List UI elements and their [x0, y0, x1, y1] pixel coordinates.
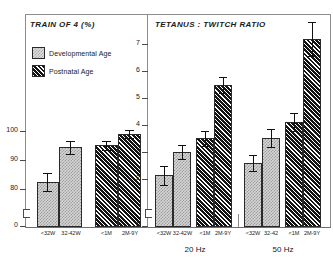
legend-label-postnatal: Postnatal Age: [49, 68, 94, 75]
errorbar-cap-bottom-left-post-lt1m: [102, 150, 111, 151]
right-ytick-label-2: 2: [124, 174, 140, 181]
errorbar-cap-bottom-right-20hz-post-2m-9y: [219, 93, 227, 94]
errorbar-cap-top-left-post-2m-9y: [125, 130, 134, 131]
errorbar-cap-bottom-right-50hz-post-lt1m: [290, 131, 298, 132]
errorbar-stem-right-20hz-dev-32-42w: [182, 145, 183, 159]
right-xtick-label-50hz-2m-9y: 2M-9Y: [300, 230, 324, 236]
right-xtick-label-50hz-32-42: 32-42: [259, 230, 283, 236]
errorbar-cap-top-right-20hz-post-lt1m: [201, 131, 209, 132]
left-axis-break-icon: [23, 209, 30, 218]
errorbar-cap-top-right-50hz-dev-32-42: [267, 129, 275, 130]
right-ytick-mark-5: [142, 98, 148, 99]
errorbar-cap-top-right-50hz-post-2m-9y: [308, 22, 316, 23]
right-ytick-label-3: 3: [124, 147, 140, 154]
legend-swatch-developmental-icon: [32, 47, 45, 59]
errorbar-stem-left-dev-lt32w: [47, 173, 48, 191]
errorbar-cap-bottom-left-dev-32-42w: [66, 154, 75, 155]
right-ytick-mark-7: [142, 44, 148, 45]
right-ytick-label-5: 5: [124, 93, 140, 100]
legend-item-postnatal: Postnatal Age: [32, 65, 94, 77]
errorbar-cap-bottom-right-20hz-post-lt1m: [201, 146, 209, 147]
errorbar-cap-top-right-20hz-dev-lt32w: [160, 166, 168, 167]
left-ytick-label-100: 100: [0, 126, 18, 133]
left-ytick-mark-90: [20, 160, 26, 161]
left-panel-title: TRAIN OF 4 (%): [30, 20, 95, 29]
right-xtick-label-20hz-2m-9y: 2M-9Y: [211, 230, 235, 236]
errorbar-stem-right-50hz-dev-32-42: [271, 129, 272, 147]
errorbar-cap-bottom-right-20hz-dev-32-42w: [178, 159, 186, 160]
errorbar-cap-bottom-right-50hz-dev-32-42: [267, 147, 275, 148]
legend-swatch-postnatal-icon: [32, 65, 45, 77]
errorbar-cap-bottom-right-50hz-dev-lt32w: [249, 171, 257, 172]
left-ytick-mark-80: [20, 189, 26, 190]
bar-left-dev-32-42w: [59, 147, 82, 227]
errorbar-stem-right-20hz-dev-lt32w: [164, 166, 165, 185]
left-ytick-label-0: 0: [0, 221, 18, 228]
errorbar-cap-top-right-50hz-post-lt1m: [290, 113, 298, 114]
right-ytick-mark-3: [142, 152, 148, 153]
errorbar-stem-left-post-lt1m: [106, 141, 107, 150]
right-panel-title: TETANUS : TWITCH RATIO: [155, 20, 266, 29]
right-ytick-mark-6: [142, 71, 148, 72]
errorbar-cap-top-left-dev-lt32w: [43, 173, 52, 174]
errorbar-stem-right-50hz-dev-lt32w: [253, 155, 254, 171]
errorbar-stem-left-post-2m-9y: [129, 130, 130, 138]
right-group-label-50hz: 50 Hz: [260, 245, 306, 254]
left-ytick-mark-100: [20, 131, 26, 132]
errorbar-cap-top-right-50hz-dev-lt32w: [249, 155, 257, 156]
bar-right-50hz-dev-lt32w: [244, 163, 262, 227]
left-xtick-label-32-42w: 32-42W: [56, 230, 86, 236]
errorbar-stem-right-20hz-post-2m-9y: [223, 77, 224, 93]
right-ytick-mark-4: [142, 125, 148, 126]
errorbar-cap-top-right-20hz-post-2m-9y: [219, 77, 227, 78]
right-group-separator: [238, 214, 239, 227]
figure-root: TRAIN OF 4 (%) Developmental Age Postnat…: [0, 0, 333, 264]
left-ytick-label-90: 90: [0, 155, 18, 162]
errorbar-stem-right-50hz-post-2m-9y: [312, 22, 313, 56]
bar-right-50hz-post-2m-9y: [303, 39, 321, 227]
legend-item-developmental: Developmental Age: [32, 47, 111, 59]
errorbar-cap-bottom-left-post-2m-9y: [125, 138, 134, 139]
bar-left-post-lt1m: [95, 145, 118, 227]
right-baseline: [148, 227, 331, 228]
right-xtick-label-20hz-32-42w: 32-42W: [170, 230, 195, 236]
right-ytick-label-0: 0: [124, 221, 140, 228]
left-xtick-label-2m-9y: 2M-9Y: [116, 230, 144, 236]
bar-right-20hz-dev-32-42w: [173, 152, 191, 227]
errorbar-stem-right-50hz-post-lt1m: [294, 113, 295, 131]
bar-right-20hz-post-2m-9y: [214, 85, 232, 227]
errorbar-cap-bottom-right-20hz-dev-lt32w: [160, 185, 168, 186]
bar-right-20hz-post-lt1m: [196, 138, 214, 227]
left-ytick-label-80: 80: [0, 184, 18, 191]
legend-label-developmental: Developmental Age: [49, 50, 111, 57]
errorbar-stem-right-20hz-post-lt1m: [205, 131, 206, 146]
right-ytick-label-4: 4: [124, 120, 140, 127]
right-group-label-20hz: 20 Hz: [172, 245, 218, 254]
errorbar-stem-left-dev-32-42w: [70, 141, 71, 154]
right-ytick-label-6: 6: [124, 66, 140, 73]
right-axis-break-icon: [145, 209, 152, 218]
bar-right-50hz-dev-32-42: [262, 138, 280, 227]
right-ytick-mark-2: [142, 179, 148, 180]
errorbar-cap-bottom-left-dev-lt32w: [43, 191, 52, 192]
right-ytick-label-7: 7: [124, 39, 140, 46]
bar-right-50hz-post-lt1m: [285, 122, 303, 227]
bar-left-dev-lt32w: [37, 182, 59, 227]
errorbar-cap-top-left-dev-32-42w: [66, 141, 75, 142]
errorbar-cap-top-left-post-lt1m: [102, 141, 111, 142]
errorbar-cap-top-right-20hz-dev-32-42w: [178, 145, 186, 146]
errorbar-cap-bottom-right-50hz-post-2m-9y: [308, 56, 316, 57]
